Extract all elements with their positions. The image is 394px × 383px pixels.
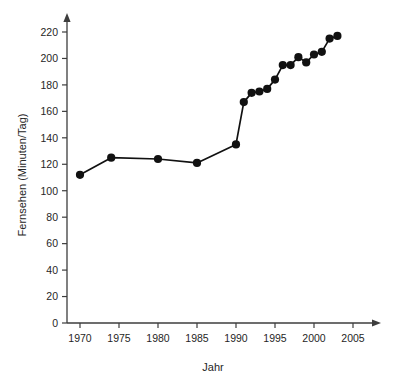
data-point	[294, 53, 302, 61]
x-tick-label: 2000	[302, 332, 326, 344]
x-axis-arrowhead	[372, 319, 381, 326]
data-point	[193, 159, 201, 167]
y-tick-label: 160	[40, 105, 58, 117]
data-point	[240, 98, 248, 106]
data-point	[232, 140, 240, 148]
chart-figure: 020406080100120140160180200220 197019751…	[0, 0, 394, 383]
y-tick-label: 0	[52, 317, 58, 329]
y-tick-label: 80	[46, 211, 58, 223]
data-point	[154, 155, 162, 163]
data-point	[333, 32, 341, 40]
y-tick-label: 220	[40, 26, 58, 38]
x-tick-label: 1980	[146, 332, 170, 344]
data-point	[248, 89, 256, 97]
data-point	[287, 61, 295, 69]
data-point	[318, 48, 326, 56]
y-tick-label: 40	[46, 264, 58, 276]
data-point	[302, 58, 310, 66]
y-tick-label: 140	[40, 132, 58, 144]
line-chart-canvas: 020406080100120140160180200220 197019751…	[0, 0, 394, 383]
y-tick-label: 100	[40, 185, 58, 197]
y-tick-label: 180	[40, 79, 58, 91]
y-tick-label: 20	[46, 290, 58, 302]
data-point	[76, 171, 84, 179]
data-point	[107, 154, 115, 162]
y-tick-label: 200	[40, 52, 58, 64]
x-tick-label: 2005	[341, 332, 365, 344]
data-point	[310, 50, 318, 58]
x-tick-label: 1975	[107, 332, 131, 344]
y-axis-arrowhead	[63, 13, 70, 22]
x-tick-label: 1990	[224, 332, 248, 344]
data-point	[255, 87, 263, 95]
y-tick-label: 60	[46, 237, 58, 249]
y-tick-label: 120	[40, 158, 58, 170]
x-axis-title: Jahr	[202, 361, 224, 373]
x-axis-ticks: 19701975198019851990199520002005	[68, 323, 365, 344]
x-tick-label: 1970	[68, 332, 92, 344]
data-point	[263, 85, 271, 93]
x-tick-label: 1985	[185, 332, 209, 344]
y-axis-title: Fernsehen (Minuten/Tag)	[16, 114, 28, 237]
data-point	[279, 61, 287, 69]
data-point	[326, 35, 334, 43]
data-point	[271, 76, 279, 84]
x-tick-label: 1995	[263, 332, 287, 344]
y-axis-ticks: 020406080100120140160180200220	[40, 26, 67, 329]
